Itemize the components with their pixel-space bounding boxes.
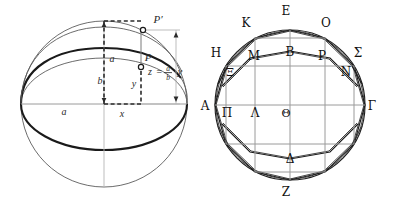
label-b-vertical: b [98,75,103,86]
arrowhead-b-bottom [102,98,107,103]
label-Sigma: Σ [354,46,362,60]
equation-numerator: a [166,64,170,73]
equation-rhs: y [177,66,183,77]
label-Delta: Δ [286,152,295,166]
left-figure-sphere-ellipse: P′ P a b y a x z = a b y [0,0,198,211]
label-Xi: Ξ [226,66,234,79]
label-a-horizontal: a [62,106,67,117]
label-Z: Ζ [282,185,290,199]
equation-denominator: b [166,73,170,82]
label-Lambda: Λ [250,106,260,120]
label-Pi: Π [222,106,232,120]
label-M: Μ [248,49,260,63]
label-O: Ο [321,16,331,30]
label-P: Ρ [318,49,326,63]
label-E: Ε [282,4,291,18]
right-figure-inscribed-polygon: Ε Κ Ο Η Μ Β Ρ Σ Ξ Ν Α Π Λ Θ Γ Δ Ζ [198,0,396,211]
point-Pprime-marker [140,27,145,32]
arrowhead-z-top [174,32,179,38]
equation-lhs: z [147,66,152,77]
label-Gamma: Γ [368,99,376,113]
arrowhead-a-top [102,22,107,27]
label-N: Ν [341,65,352,79]
label-B: Β [286,45,295,59]
equation-equals: = [156,66,163,77]
label-p-prime: P′ [152,13,163,25]
right-figure-canvas: Ε Κ Ο Η Μ Β Ρ Σ Ξ Ν Α Π Λ Θ Γ Δ Ζ [198,0,396,211]
left-figure-canvas: P′ P a b y a x z = a b y [0,0,198,211]
label-Theta: Θ [281,107,290,120]
label-p: P [144,51,152,63]
label-y-inner: y [131,78,137,89]
label-A: Α [200,99,210,113]
label-a-vertical: a [110,53,115,64]
point-P-marker [138,64,143,69]
figure-sheet: P′ P a b y a x z = a b y [0,0,396,211]
label-x-horizontal: x [119,108,125,119]
label-H: Η [211,46,221,60]
arrowhead-z-bottom [174,97,179,103]
label-K: Κ [242,16,252,30]
